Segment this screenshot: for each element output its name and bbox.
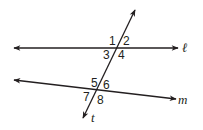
angle-5: 5 — [91, 76, 98, 90]
label-m: m — [178, 92, 187, 107]
diagram-canvas: ℓ m t 1 2 3 4 5 6 7 8 — [0, 0, 203, 130]
angle-3: 3 — [103, 48, 110, 62]
angle-6: 6 — [103, 78, 110, 92]
angle-8: 8 — [97, 93, 104, 107]
angle-2: 2 — [123, 34, 130, 48]
lines-diagram: ℓ m t 1 2 3 4 5 6 7 8 — [0, 0, 203, 130]
angle-1: 1 — [109, 34, 116, 48]
angle-4: 4 — [118, 48, 125, 62]
label-l: ℓ — [182, 40, 188, 55]
transversal-t — [83, 10, 135, 118]
angle-7: 7 — [83, 90, 90, 104]
label-t: t — [91, 110, 95, 125]
